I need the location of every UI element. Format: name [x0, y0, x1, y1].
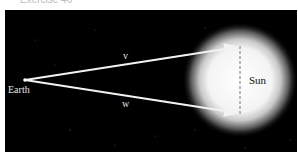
earth-label: Earth [8, 84, 30, 95]
earth-sun-vector-diagram: Earth v w Sun [5, 10, 297, 152]
figure-caption: Exercise 46 [20, 0, 72, 5]
sun-label: Sun [249, 74, 267, 86]
vector-v-label: v [123, 50, 128, 61]
diagram-panel: Earth v w Sun [5, 10, 297, 152]
earth-icon [23, 78, 27, 82]
sun-icon [182, 22, 297, 138]
vector-w-label: w [122, 98, 130, 109]
